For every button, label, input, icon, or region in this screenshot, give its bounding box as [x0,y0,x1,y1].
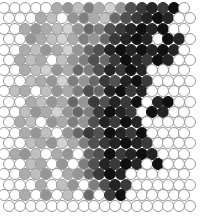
hexagonal-circle-lattice-figure [0,0,202,218]
lattice-circle [184,200,196,212]
